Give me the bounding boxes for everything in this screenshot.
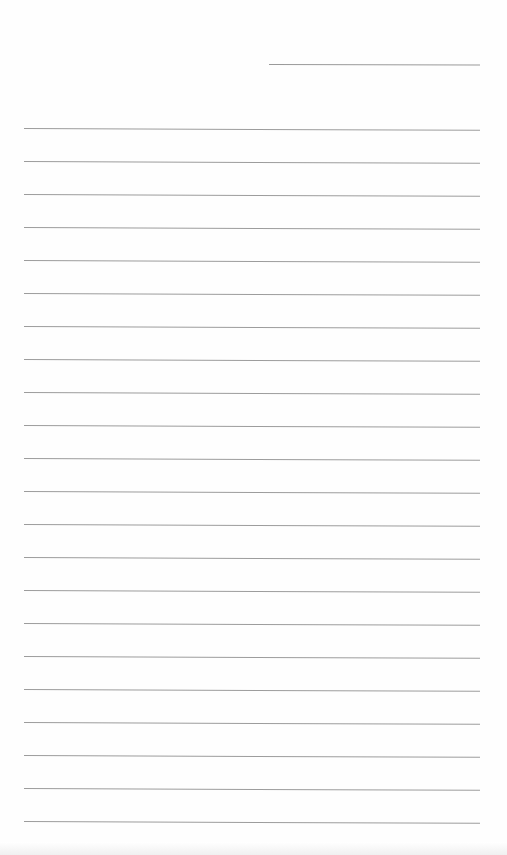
ruled-line bbox=[24, 656, 480, 659]
ruled-line bbox=[24, 359, 480, 362]
notepaper-page bbox=[0, 0, 507, 855]
ruled-line bbox=[24, 194, 480, 197]
ruled-line bbox=[24, 689, 480, 692]
ruled-line bbox=[24, 425, 480, 428]
ruled-line bbox=[24, 524, 480, 527]
ruled-line bbox=[24, 392, 480, 395]
page-bottom-edge bbox=[0, 842, 507, 855]
ruled-line bbox=[24, 788, 480, 791]
ruled-line bbox=[24, 458, 480, 461]
ruled-line bbox=[24, 623, 480, 626]
ruled-line bbox=[24, 491, 480, 494]
ruled-line bbox=[24, 227, 480, 230]
ruled-line bbox=[24, 755, 480, 758]
ruled-line bbox=[24, 326, 480, 329]
header-line bbox=[269, 64, 480, 66]
ruled-line bbox=[24, 722, 480, 725]
ruled-line bbox=[24, 128, 480, 131]
ruled-line bbox=[24, 260, 480, 263]
ruled-line bbox=[24, 590, 480, 593]
ruled-line bbox=[24, 161, 480, 164]
ruled-line bbox=[24, 557, 480, 560]
ruled-line bbox=[24, 293, 480, 296]
ruled-line bbox=[24, 821, 480, 824]
